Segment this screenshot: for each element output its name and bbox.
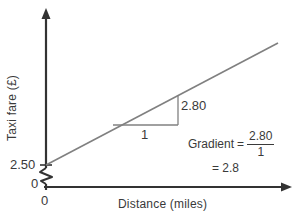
gradient-denominator: 1 [255,145,266,159]
gradient-result-line: = 2.8 [212,162,274,174]
y-axis-arrowhead-icon [42,8,51,19]
gradient-calculation: Gradient = 2.80 1 = 2.8 [188,130,274,174]
y-axis-break-zigzag [40,168,52,184]
x-axis-arrowhead-icon [281,183,292,192]
triangle-rise-label: 2.80 [181,99,206,112]
gradient-equals-sign: = [237,138,244,150]
gradient-word: Gradient [188,138,234,150]
gradient-formula-line: Gradient = 2.80 1 [188,130,274,158]
gradient-fraction: 2.80 1 [247,130,274,158]
y-tick-label-250: 2.50 [10,158,35,171]
gradient-result-value: 2.8 [222,161,239,175]
y-axis-title: Taxi fare (£) [0,100,64,116]
x-axis-title: Distance (miles) [118,198,207,210]
y-origin-label: 0 [31,177,38,190]
x-origin-label: 0 [41,194,48,207]
taxi-fare-graph-figure: Taxi fare (£) Distance (miles) 2.50 0 0 … [0,0,299,224]
gradient-result-equals-sign: = [212,161,219,175]
gradient-numerator: 2.80 [247,130,274,145]
triangle-run-label: 1 [141,128,148,141]
